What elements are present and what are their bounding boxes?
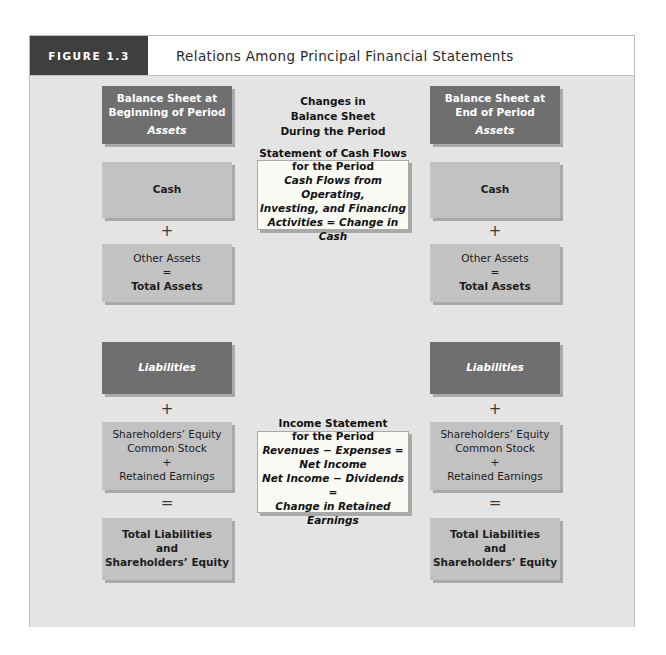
right-equals-operator: = (430, 496, 560, 511)
income-statement-box: Income Statement for the Period Revenues… (257, 431, 409, 513)
right-header-line2: End of Period (455, 106, 535, 120)
right-cash-label: Cash (481, 183, 510, 197)
statement-of-cash-flows-box: Statement of Cash Flows for the Period C… (257, 160, 409, 230)
right-plus-assets-operator: + (430, 224, 560, 239)
figure-header: FIGURE 1.3 Relations Among Principal Fin… (30, 36, 634, 76)
right-header-assets: Assets (475, 124, 514, 138)
left-plus-equity-operator: + (102, 402, 232, 417)
right-total-line1: Total Liabilities (450, 528, 540, 542)
cash-flows-title1: Statement of Cash Flows (259, 147, 407, 161)
right-equity-line4: Retained Earnings (447, 470, 542, 484)
left-total-line1: Total Liabilities (122, 528, 212, 542)
cash-flows-title2: for the Period (292, 160, 374, 174)
right-other-assets-box: Other Assets = Total Assets (430, 244, 560, 302)
left-liabilities-label: Liabilities (138, 361, 196, 375)
left-shareholders-equity-box: Shareholders’ Equity Common Stock + Reta… (102, 422, 232, 490)
left-balance-sheet-header-box: Balance Sheet at Beginning of Period Ass… (102, 86, 232, 144)
cash-flows-body1: Cash Flows from Operating, (258, 174, 408, 202)
left-other-assets-box: Other Assets = Total Assets (102, 244, 232, 302)
right-total-assets-label: Total Assets (459, 280, 530, 294)
center-changes-heading: Changes in Balance Sheet During the Peri… (268, 94, 398, 140)
left-header-line2: Beginning of Period (108, 106, 225, 120)
income-body1: Revenues − Expenses = (262, 444, 403, 458)
left-cash-box: Cash (102, 162, 232, 218)
figure-number-tab: FIGURE 1.3 (30, 36, 148, 75)
right-total-liabilities-equity-box: Total Liabilities and Shareholders’ Equi… (430, 518, 560, 580)
right-balance-sheet-header-box: Balance Sheet at End of Period Assets (430, 86, 560, 144)
right-liabilities-box: Liabilities (430, 342, 560, 394)
right-cash-box: Cash (430, 162, 560, 218)
figure-title: Relations Among Principal Financial Stat… (176, 36, 514, 75)
income-body4: Change in Retained Earnings (258, 500, 408, 528)
cash-flows-body2: Investing, and Financing (260, 202, 406, 216)
income-title1: Income Statement (279, 417, 388, 431)
left-total-assets-label: Total Assets (131, 280, 202, 294)
figure-diagram-body: Balance Sheet at Beginning of Period Ass… (30, 76, 634, 627)
right-liabilities-label: Liabilities (466, 361, 524, 375)
center-heading-line2: Balance Sheet (268, 109, 398, 124)
center-heading-line1: Changes in (268, 94, 398, 109)
income-title2: for the Period (292, 430, 374, 444)
left-header-line1: Balance Sheet at (117, 92, 217, 106)
right-total-line2: and (484, 542, 506, 556)
right-plus-equity-operator: + (430, 402, 560, 417)
right-assets-equals: = (491, 266, 500, 280)
left-header-assets: Assets (147, 124, 186, 138)
income-body3: Net Income − Dividends = (258, 472, 408, 500)
left-total-line3: Shareholders’ Equity (105, 556, 229, 570)
left-equity-line4: Retained Earnings (119, 470, 214, 484)
right-total-line3: Shareholders’ Equity (433, 556, 557, 570)
left-other-assets-label: Other Assets (133, 252, 200, 266)
cash-flows-body3: Activities = Change in Cash (258, 216, 408, 244)
left-equity-line2: Common Stock (127, 442, 207, 456)
left-equity-line1: Shareholders’ Equity (112, 428, 221, 442)
right-other-assets-label: Other Assets (461, 252, 528, 266)
left-equity-plus: + (163, 456, 172, 470)
left-equals-operator: = (102, 496, 232, 511)
right-equity-line2: Common Stock (455, 442, 535, 456)
left-liabilities-box: Liabilities (102, 342, 232, 394)
figure-frame: FIGURE 1.3 Relations Among Principal Fin… (29, 35, 635, 627)
right-equity-line1: Shareholders’ Equity (440, 428, 549, 442)
right-shareholders-equity-box: Shareholders’ Equity Common Stock + Reta… (430, 422, 560, 490)
right-equity-plus: + (491, 456, 500, 470)
left-cash-label: Cash (153, 183, 182, 197)
left-total-liabilities-equity-box: Total Liabilities and Shareholders’ Equi… (102, 518, 232, 580)
right-header-line1: Balance Sheet at (445, 92, 545, 106)
left-assets-equals: = (163, 266, 172, 280)
left-total-line2: and (156, 542, 178, 556)
center-heading-line3: During the Period (268, 124, 398, 139)
left-plus-assets-operator: + (102, 224, 232, 239)
income-body2: Net Income (299, 458, 366, 472)
